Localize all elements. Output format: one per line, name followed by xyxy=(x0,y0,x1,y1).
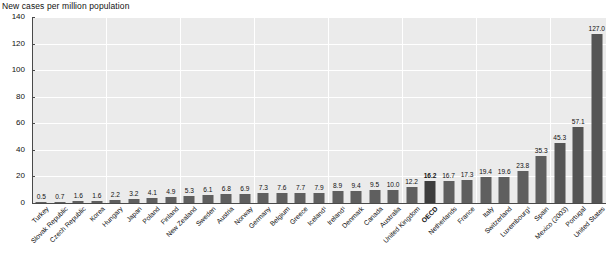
bar-slot: 7.3 xyxy=(254,17,273,203)
bar-slot: 127.0 xyxy=(587,17,606,203)
category-label-text: Japan xyxy=(125,205,143,223)
bar-slot: 9.4 xyxy=(347,17,366,203)
category-label-text: Italy xyxy=(481,205,495,219)
y-axis-tick-label: 0 xyxy=(21,199,25,207)
bar-value-label: 23.8 xyxy=(516,162,529,169)
x-axis-category-labels: TurkeySlovak RepublicCzech RepublicKorea… xyxy=(32,205,606,275)
bar-slot: 23.8 xyxy=(513,17,532,203)
bar-slot: 19.4 xyxy=(476,17,495,203)
bar-slot: 5.3 xyxy=(180,17,199,203)
bar-slot: 7.6 xyxy=(273,17,292,203)
bar-slot: 4.1 xyxy=(143,17,162,203)
y-axis-tick-label: 80 xyxy=(16,93,25,101)
bar-slot: 10.0 xyxy=(384,17,403,203)
bar-value-label: 19.6 xyxy=(498,168,511,175)
bar-slot: 45.3 xyxy=(550,17,569,203)
y-axis-tickmark xyxy=(32,150,35,151)
y-axis-tick-label: 100 xyxy=(12,66,25,74)
bar-slot: 6.1 xyxy=(199,17,218,203)
bar-value-label: 17.3 xyxy=(461,171,474,178)
bar-slot: 3.2 xyxy=(125,17,144,203)
bar-value-label: 9.4 xyxy=(351,182,360,189)
y-axis-tickmark xyxy=(32,97,35,98)
bar-slot: 1.6 xyxy=(69,17,88,203)
bar-slot: 6.8 xyxy=(217,17,236,203)
y-axis-labels: 020406080100120140 xyxy=(0,17,30,204)
bar-slot: 17.3 xyxy=(458,17,477,203)
bar-value-label: 0.5 xyxy=(37,193,46,200)
y-axis-tickmark xyxy=(32,17,35,18)
y-axis-tickmark xyxy=(32,203,35,204)
chart-root: New cases per million population 0204060… xyxy=(0,0,610,275)
y-axis-tick-label: 20 xyxy=(16,172,25,180)
y-axis-tickmark xyxy=(32,44,35,45)
bar-slot: 16.2 xyxy=(421,17,440,203)
bar-slot: 19.6 xyxy=(495,17,514,203)
bar-value-label: 45.3 xyxy=(553,134,566,141)
y-axis-tick-label: 140 xyxy=(12,13,25,21)
bar-value-label: 127.0 xyxy=(588,25,605,32)
bar-slot: 0.7 xyxy=(51,17,70,203)
bar-value-label: 16.2 xyxy=(424,172,437,179)
bar-slot: 7.7 xyxy=(291,17,310,203)
y-axis-tick-label: 60 xyxy=(16,119,25,127)
bar-slot: 8.9 xyxy=(328,17,347,203)
bar-slot: 12.2 xyxy=(402,17,421,203)
chart-title: New cases per million population xyxy=(2,1,129,11)
y-axis-tickmark xyxy=(32,70,35,71)
y-axis-tick-label: 120 xyxy=(12,40,25,48)
bar-slot: 6.9 xyxy=(236,17,255,203)
bar-value-label: 57.1 xyxy=(572,118,585,125)
bar-value-label: 12.2 xyxy=(405,178,418,185)
bar-slot: 9.5 xyxy=(365,17,384,203)
bar-slot: 0.5 xyxy=(32,17,51,203)
bar-value-label: 10.0 xyxy=(387,181,400,188)
bar-slot: 7.9 xyxy=(310,17,329,203)
bar-value-label: 35.3 xyxy=(535,147,548,154)
bar-slot: 4.9 xyxy=(162,17,181,203)
y-axis-tickmark xyxy=(32,123,35,124)
bar-slot: 57.1 xyxy=(569,17,588,203)
y-axis-tick-label: 40 xyxy=(16,146,25,154)
x-axis-line xyxy=(32,203,606,204)
y-axis-tickmark xyxy=(32,176,35,177)
bar-value-label: 19.4 xyxy=(479,168,492,175)
bar-slot: 35.3 xyxy=(532,17,551,203)
